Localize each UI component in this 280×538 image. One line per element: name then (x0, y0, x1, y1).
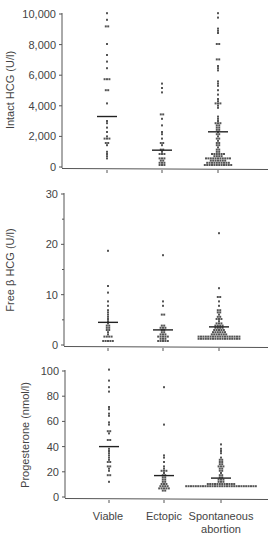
data-point (220, 479, 222, 481)
data-point (218, 151, 220, 153)
data-point (105, 142, 107, 144)
data-point (108, 325, 110, 327)
y-tick-label: 60 (47, 415, 59, 427)
data-point (219, 459, 221, 461)
data-point (212, 338, 214, 340)
data-point (229, 338, 231, 340)
data-point (198, 338, 200, 340)
y-tick-label: 20 (47, 466, 59, 478)
data-point (217, 135, 219, 137)
free-beta-hcg-panel: 0102030 (46, 188, 268, 351)
data-point (106, 67, 108, 69)
data-point (197, 485, 199, 487)
data-point (221, 470, 223, 472)
data-point (218, 479, 220, 481)
data-point (161, 133, 163, 135)
data-point (185, 485, 187, 487)
data-point (107, 461, 109, 463)
data-point (252, 485, 254, 487)
data-point (163, 454, 165, 456)
data-point (106, 155, 108, 157)
data-point (161, 483, 163, 485)
data-point (224, 338, 226, 340)
data-point (105, 340, 107, 342)
data-point (219, 309, 221, 311)
data-point (231, 336, 233, 338)
data-point (104, 78, 106, 80)
data-point (161, 83, 163, 85)
data-point (108, 329, 110, 331)
data-point (222, 336, 224, 338)
data-point (215, 160, 217, 162)
data-point (107, 285, 109, 287)
y-tick-label: 10 (46, 289, 58, 301)
data-point (221, 463, 223, 465)
data-point (159, 485, 161, 487)
data-point (108, 481, 110, 483)
data-point (164, 481, 166, 483)
data-point (217, 102, 219, 104)
data-point (219, 157, 221, 159)
data-point (108, 448, 110, 450)
data-point (231, 485, 233, 487)
data-point (224, 331, 226, 333)
data-point (224, 483, 226, 485)
data-point (218, 142, 220, 144)
data-point (218, 322, 220, 324)
data-point (188, 485, 190, 487)
data-point (159, 157, 161, 159)
data-point (217, 100, 219, 102)
data-point (248, 485, 250, 487)
y-tick-label: 40 (47, 441, 59, 453)
data-point (160, 160, 162, 162)
data-point (200, 338, 202, 340)
data-point (162, 305, 164, 307)
data-point (107, 474, 109, 476)
data-point (231, 338, 233, 340)
data-point (200, 336, 202, 338)
data-point (217, 157, 219, 159)
data-point (161, 91, 163, 93)
data-point (217, 311, 219, 313)
data-point (216, 164, 218, 166)
data-point (106, 138, 108, 140)
data-point (219, 468, 221, 470)
data-point (217, 338, 219, 340)
data-point (217, 160, 219, 162)
data-point (226, 485, 228, 487)
data-point (106, 151, 108, 153)
data-point (106, 153, 108, 155)
data-point (218, 43, 220, 45)
data-point (205, 157, 207, 159)
data-point (108, 468, 110, 470)
data-point (163, 468, 165, 470)
y-tick-label: 2,000 (28, 130, 56, 142)
data-point (161, 124, 163, 126)
data-point (220, 452, 222, 454)
data-point (219, 470, 221, 472)
intact-hcg-panel: 02,0004,0006,0008,00010,000 (22, 8, 268, 173)
data-point (108, 450, 110, 452)
data-point (238, 485, 240, 487)
data-point (222, 160, 224, 162)
data-point (164, 327, 166, 329)
data-point (216, 124, 218, 126)
data-point (107, 430, 109, 432)
data-point (216, 333, 218, 335)
data-point (161, 157, 163, 159)
data-point (221, 483, 223, 485)
data-point (233, 485, 235, 487)
data-point (221, 153, 223, 155)
data-point (219, 463, 221, 465)
data-point (159, 153, 161, 155)
data-point (220, 481, 222, 483)
data-point (221, 468, 223, 470)
data-point (218, 162, 220, 164)
data-point (218, 329, 220, 331)
data-point (202, 336, 204, 338)
data-point (218, 305, 220, 307)
data-point (161, 153, 163, 155)
data-point (161, 164, 163, 166)
data-point (228, 164, 230, 166)
x-label-abortion: abortion (201, 523, 241, 535)
